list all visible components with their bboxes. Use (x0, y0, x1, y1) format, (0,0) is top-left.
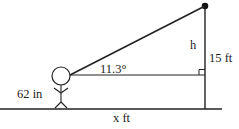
person-head (52, 67, 70, 85)
distance-label: x ft (113, 111, 131, 125)
person-figure (52, 67, 70, 108)
pole-height-label: 15 ft (209, 51, 233, 65)
person-height-label: 62 in (17, 87, 43, 101)
angle-label: 11.3° (100, 62, 126, 76)
person-left-leg (55, 102, 61, 108)
angle-of-elevation-diagram: 11.3° h 15 ft 62 in x ft (0, 0, 239, 129)
person-right-arm (61, 88, 68, 93)
person-left-arm (54, 88, 61, 93)
person-right-leg (61, 102, 67, 108)
line-of-sight (70, 6, 205, 75)
right-angle-mark (199, 70, 205, 76)
h-label: h (190, 38, 197, 52)
